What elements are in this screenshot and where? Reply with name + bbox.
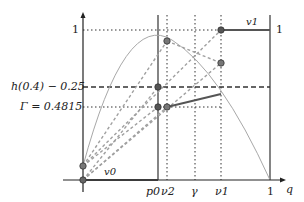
x-label-nu1: ν1: [215, 186, 229, 197]
entropy-curve: [83, 35, 270, 180]
y-axis-arrow-icon: [81, 12, 86, 18]
v0-label: v0: [104, 167, 116, 177]
x-label-gamma: γ: [191, 186, 198, 197]
x-label-one: 1: [267, 186, 274, 197]
diagram: 1 h(0.4) − 0.25 Γ = 0.4815 1 v1 v0 p0 ν2…: [0, 0, 304, 202]
marked-points: [80, 27, 224, 183]
dashed-fan-lines: [83, 30, 221, 180]
x-label-nu2: ν2: [161, 186, 175, 197]
y-label-gamma-level: Γ = 0.4815: [20, 101, 82, 112]
x-axis-arrow-icon: [280, 178, 286, 183]
x-axis-label: q: [286, 184, 293, 195]
y-label-h-level: h(0.4) − 0.25: [11, 81, 85, 92]
middle-segment: [167, 94, 221, 107]
right-label-one: 1: [276, 24, 283, 35]
x-label-p0: p0: [146, 186, 160, 197]
v1-label: v1: [246, 17, 258, 27]
y-label-one: 1: [72, 24, 79, 35]
